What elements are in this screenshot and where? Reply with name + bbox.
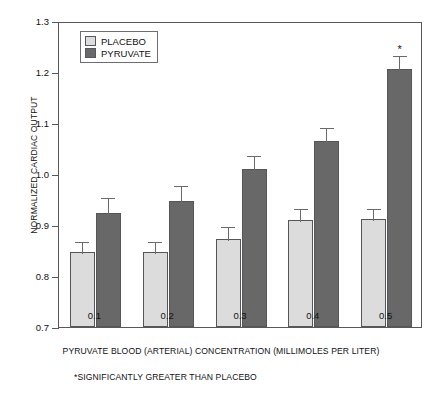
error-bar-stem — [155, 242, 156, 254]
error-bar-stem — [181, 186, 182, 203]
significance-marker: * — [393, 45, 407, 53]
error-bar-cap — [75, 242, 89, 243]
error-bar-cap — [247, 156, 261, 157]
y-axis-title: NORMALIZED CARDIAC OUTPUT — [29, 45, 39, 285]
legend-item-placebo: PLACEBO — [85, 35, 151, 47]
y-tick-label: 1.0 — [15, 169, 49, 180]
y-tick-mark — [52, 277, 59, 278]
error-bar-stem — [373, 209, 374, 222]
plot-area: 0.70.80.91.01.11.21.3 * PLACEBO PYRUVATE — [58, 22, 422, 328]
error-bar-cap — [294, 209, 308, 210]
bar-pyruvate-0.4 — [314, 141, 339, 327]
error-bar-stem — [399, 56, 400, 71]
y-tick-mark — [52, 328, 59, 329]
y-tick-label: 1.1 — [15, 118, 49, 129]
bar-chart-figure: NORMALIZED CARDIAC OUTPUT 0.70.80.91.01.… — [0, 0, 442, 408]
legend-swatch-pyruvate-icon — [85, 48, 96, 58]
error-bar-stem — [300, 209, 301, 222]
error-bar-cap — [367, 209, 381, 210]
error-bar-stem — [228, 227, 229, 241]
x-tick-label-0.2: 0.2 — [147, 310, 187, 321]
bar-pyruvate-0.5 — [387, 69, 412, 327]
y-tick-label: 0.9 — [15, 220, 49, 231]
y-tick-mark — [52, 226, 59, 227]
y-tick-mark — [52, 175, 59, 176]
y-tick-label: 0.7 — [15, 322, 49, 333]
y-tick-mark — [52, 22, 59, 23]
x-axis-title: PYRUVATE BLOOD (ARTERIAL) CONCENTRATION … — [0, 346, 442, 356]
y-tick-mark — [52, 124, 59, 125]
legend-swatch-placebo-icon — [85, 36, 96, 46]
bar-pyruvate-0.2 — [169, 201, 194, 327]
bar-pyruvate-0.3 — [242, 169, 267, 327]
error-bar-cap — [393, 56, 407, 57]
x-tick-label-0.5: 0.5 — [366, 310, 406, 321]
error-bar-cap — [221, 227, 235, 228]
error-bar-cap — [174, 186, 188, 187]
x-tick-label-0.4: 0.4 — [293, 310, 333, 321]
error-bar-cap — [148, 242, 162, 243]
legend-item-pyruvate: PYRUVATE — [85, 47, 151, 59]
y-tick-label: 1.3 — [15, 16, 49, 27]
error-bar-stem — [326, 128, 327, 143]
error-bar-stem — [82, 242, 83, 254]
y-tick-label: 1.2 — [15, 67, 49, 78]
chart-footnote: *SIGNIFICANTLY GREATER THAN PLACEBO — [74, 372, 257, 382]
x-tick-label-0.3: 0.3 — [220, 310, 260, 321]
legend: PLACEBO PYRUVATE — [80, 31, 158, 63]
error-bar-stem — [254, 156, 255, 171]
y-tick-label: 0.8 — [15, 271, 49, 282]
legend-label-pyruvate: PYRUVATE — [101, 48, 151, 59]
error-bar-cap — [101, 198, 115, 199]
legend-label-placebo: PLACEBO — [101, 36, 146, 47]
error-bar-cap — [320, 128, 334, 129]
error-bar-stem — [108, 198, 109, 215]
x-tick-label-0.1: 0.1 — [74, 310, 114, 321]
y-tick-mark — [52, 73, 59, 74]
